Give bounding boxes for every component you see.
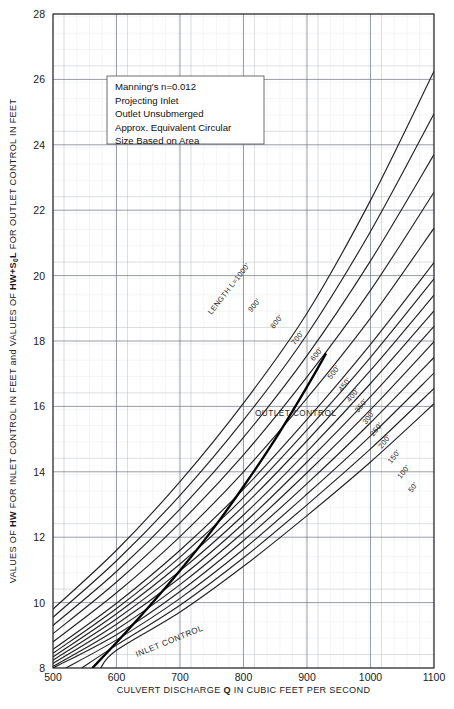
x-tick-label: 500 bbox=[44, 671, 62, 683]
x-tick-label: 900 bbox=[298, 671, 316, 683]
note-line-5: Size Based on Area bbox=[115, 135, 200, 146]
y-tick-label: 28 bbox=[33, 8, 45, 20]
y-tick-label: 24 bbox=[33, 139, 45, 151]
chart-svg: LENGTH L=1000'900'800'700'600'500'450'40… bbox=[0, 0, 454, 709]
x-tick-label: 600 bbox=[108, 671, 126, 683]
note-line-2: Projecting Inlet bbox=[115, 95, 179, 106]
y-tick-label: 20 bbox=[33, 270, 45, 282]
y-tick-label: 26 bbox=[33, 73, 45, 85]
note-line-3: Outlet Unsubmerged bbox=[115, 108, 204, 119]
y-tick-label: 22 bbox=[33, 204, 45, 216]
y-tick-label: 14 bbox=[33, 466, 45, 478]
x-tick-label: 1100 bbox=[423, 671, 446, 683]
x-tick-label: 700 bbox=[171, 671, 189, 683]
y-tick-label: 16 bbox=[33, 400, 45, 412]
note-box: Manning's n=0.012 Projecting Inlet Outle… bbox=[107, 76, 264, 146]
y-tick-label: 18 bbox=[33, 335, 45, 347]
note-line-1: Manning's n=0.012 bbox=[115, 81, 196, 92]
y-axis-title: VALUES OF HW FOR INLET CONTROL IN FEET a… bbox=[8, 99, 19, 584]
x-tick-label: 800 bbox=[235, 671, 253, 683]
note-line-4: Approx. Equivalent Circular bbox=[115, 122, 232, 133]
y-tick-label: 12 bbox=[33, 531, 45, 543]
x-axis-title: CULVERT DISCHARGE Q IN CUBIC FEET PER SE… bbox=[117, 685, 371, 695]
culvert-nomograph-figure: LENGTH L=1000'900'800'700'600'500'450'40… bbox=[0, 0, 454, 709]
y-tick-label: 10 bbox=[33, 597, 45, 609]
x-tick-label: 1000 bbox=[359, 671, 383, 683]
outlet-control-label: OUTLET CONTROL bbox=[255, 409, 336, 418]
